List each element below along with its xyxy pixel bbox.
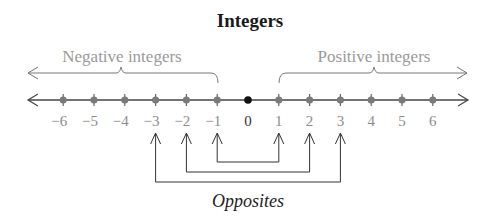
tick-label: −5 (82, 113, 98, 129)
tick-label: −1 (205, 113, 221, 129)
origin-dot-icon (244, 96, 252, 104)
tick-label: −3 (144, 113, 160, 129)
tick-2: 2 (306, 94, 314, 129)
tick-dot-icon (429, 96, 436, 103)
opposites-label: Opposites (212, 191, 284, 211)
tick-dot-icon (183, 96, 190, 103)
tick-dot-icon (214, 96, 221, 103)
tick-dot-icon (398, 96, 405, 103)
positive-integers-label: Positive integers (318, 47, 431, 66)
tick-dot-icon (152, 96, 159, 103)
tick-dot-icon (337, 96, 344, 103)
tick-dot-icon (368, 96, 375, 103)
tick-label: −2 (174, 113, 190, 129)
tick-3: 3 (337, 94, 345, 129)
tick-dot-icon (275, 96, 282, 103)
tick--4: −4 (113, 94, 129, 129)
integers-diagram: Integers Negative integers Positive inte… (0, 0, 498, 223)
number-line: −6−5−4−3−2−10123456 (28, 94, 468, 129)
tick-label: 2 (306, 113, 314, 129)
tick-5: 5 (398, 94, 406, 129)
tick--6: −6 (51, 94, 67, 129)
diagram-title: Integers (217, 10, 283, 31)
tick-dot-icon (60, 96, 67, 103)
positive-integers-brace: Positive integers (279, 47, 467, 83)
tick-dot-icon (90, 96, 97, 103)
tick-dot-icon (306, 96, 313, 103)
tick--5: −5 (82, 94, 98, 129)
opposite-pair-2 (181, 133, 314, 172)
tick-0: 0 (244, 96, 252, 129)
negative-integers-brace: Negative integers (28, 47, 218, 83)
tick-6: 6 (429, 94, 437, 129)
negative-integers-label: Negative integers (62, 47, 181, 66)
tick-label: 6 (429, 113, 437, 129)
opposite-pair-1 (212, 133, 284, 162)
tick-label: 5 (398, 113, 406, 129)
tick-label: 0 (244, 113, 252, 129)
tick-label: −6 (51, 113, 67, 129)
tick-label: 4 (367, 113, 375, 129)
tick-label: 1 (275, 113, 283, 129)
tick-dot-icon (121, 96, 128, 103)
tick-1: 1 (275, 94, 283, 129)
tick-label: −4 (113, 113, 129, 129)
tick--3: −3 (144, 94, 160, 129)
tick--2: −2 (174, 94, 190, 129)
opposite-pair-3 (151, 133, 346, 182)
tick--1: −1 (205, 94, 221, 129)
opposites-brackets (151, 133, 346, 182)
tick-label: 3 (337, 113, 345, 129)
tick-4: 4 (367, 94, 375, 129)
